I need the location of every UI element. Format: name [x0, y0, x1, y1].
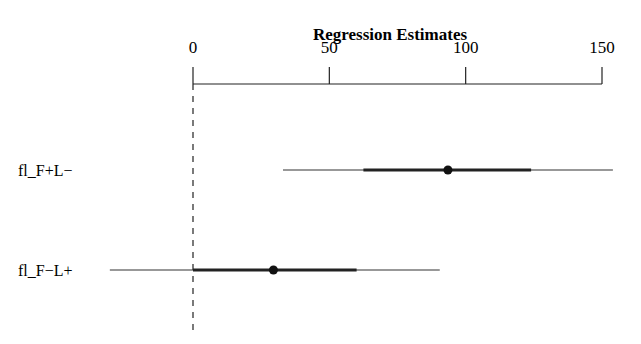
point-estimate-marker: [269, 266, 278, 275]
axis-tick-label: 100: [453, 38, 479, 57]
axis-tick-label: 150: [589, 38, 615, 57]
estimate-row: fl_F+L−: [18, 162, 613, 179]
regression-estimates-chart: Regression Estimates 050100150 fl_F+L−fl…: [0, 0, 641, 344]
axis-tick-label: 50: [321, 38, 338, 57]
estimate-rows: fl_F+L−fl_F−L+: [18, 162, 613, 279]
x-axis: 050100150: [189, 38, 615, 84]
row-label: fl_F+L−: [18, 162, 73, 179]
axis-tick-label: 0: [189, 38, 198, 57]
estimate-row: fl_F−L+: [18, 262, 440, 279]
point-estimate-marker: [443, 166, 452, 175]
row-label: fl_F−L+: [18, 262, 73, 279]
